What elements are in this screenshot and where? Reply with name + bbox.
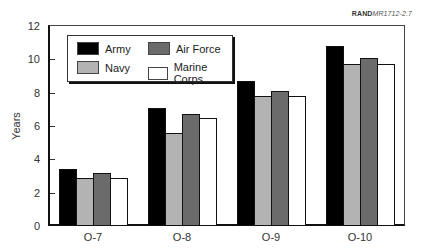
y-tick-label: 8: [20, 87, 40, 99]
y-tick-label: 6: [20, 120, 40, 132]
bar-army-o-8: [148, 108, 166, 226]
y-tick-label: 12: [20, 20, 40, 32]
legend-item-marine-corps: Marine Corps: [148, 61, 232, 85]
legend-swatch-marine-corps: [148, 67, 168, 80]
bar-navy-o-8: [165, 133, 183, 226]
bar-army-o-9: [237, 81, 255, 226]
bar-navy-o-7: [76, 178, 94, 226]
x-tick-label: O-10: [340, 231, 380, 243]
x-tick-label: O-8: [162, 231, 202, 243]
legend-item-army: Army: [77, 42, 131, 55]
legend-item-navy: Navy: [77, 61, 130, 74]
bar-marine-corps-o-7: [110, 178, 128, 226]
legend-swatch-army: [77, 42, 99, 55]
legend-label: Marine Corps: [174, 61, 232, 85]
bar-air-force-o-9: [271, 91, 289, 226]
bar-air-force-o-10: [360, 58, 378, 226]
y-tick-label: 4: [20, 153, 40, 165]
y-tick-label: 10: [20, 53, 40, 65]
legend-label: Air Force: [176, 43, 221, 55]
x-tick-label: O-7: [73, 231, 113, 243]
y-tick-label: 0: [20, 220, 40, 232]
bar-navy-o-9: [254, 96, 272, 226]
legend-item-air-force: Air Force: [148, 42, 221, 55]
legend-swatch-air-force: [148, 42, 170, 55]
bar-air-force-o-7: [93, 173, 111, 226]
bar-air-force-o-8: [182, 114, 200, 226]
legend-label: Navy: [105, 62, 130, 74]
bar-army-o-7: [59, 169, 77, 226]
y-tick-label: 2: [20, 187, 40, 199]
x-tick-label: O-9: [251, 231, 291, 243]
legend-swatch-navy: [77, 61, 99, 74]
source-label: RANDMR1712-2.7: [352, 10, 412, 17]
bar-marine-corps-o-10: [377, 64, 395, 226]
bar-marine-corps-o-8: [199, 118, 217, 226]
bar-marine-corps-o-9: [288, 96, 306, 226]
legend-label: Army: [105, 43, 131, 55]
bar-army-o-10: [326, 46, 344, 226]
legend: Army Air Force Navy Marine Corps: [67, 35, 233, 82]
bar-navy-o-10: [343, 64, 361, 226]
